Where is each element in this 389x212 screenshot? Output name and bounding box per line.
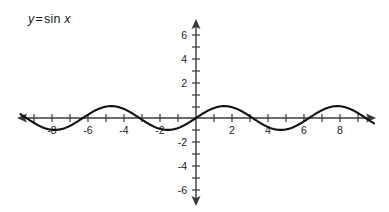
y-tick-label: -2 bbox=[178, 136, 187, 148]
y-axis-tick-labels: 6 4 2 -2 -4 -6 bbox=[178, 29, 188, 196]
x-tick-label: 2 bbox=[229, 124, 235, 136]
x-tick-label: -4 bbox=[119, 124, 128, 136]
sine-graph-figure: y=sin x bbox=[0, 0, 389, 212]
y-tick-label: -4 bbox=[178, 160, 187, 172]
equation-equals-sign: = bbox=[34, 12, 44, 26]
x-tick-label: 6 bbox=[301, 124, 307, 136]
y-tick-label: 4 bbox=[181, 53, 187, 65]
x-tick-label: -6 bbox=[83, 124, 92, 136]
y-tick-label: -6 bbox=[178, 184, 187, 196]
y-tick-label: 2 bbox=[181, 77, 187, 89]
equation-label: y=sin x bbox=[28, 12, 71, 26]
x-tick-label: 8 bbox=[337, 124, 343, 136]
equation-function-name: sin bbox=[44, 12, 61, 26]
plot-area: -8 -6 -4 -2 2 4 6 8 6 4 2 -2 -4 -6 bbox=[0, 0, 389, 212]
equation-variable-x: x bbox=[64, 12, 70, 26]
y-tick-label: 6 bbox=[181, 29, 187, 41]
